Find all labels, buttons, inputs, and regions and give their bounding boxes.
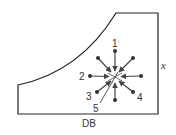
label-5: 5 xyxy=(93,103,99,114)
spoke-upper-right xyxy=(119,58,133,72)
dot-lower-left xyxy=(95,90,99,94)
label-3: 3 xyxy=(86,91,92,102)
dot-lower-right xyxy=(131,90,135,94)
spoke-left xyxy=(90,76,109,77)
label-1: 1 xyxy=(112,38,118,49)
label-2: 2 xyxy=(79,71,85,82)
spoke-lower-left xyxy=(97,81,111,92)
dot-upper-right xyxy=(131,56,135,60)
spoke-right xyxy=(121,76,141,77)
label-4: 4 xyxy=(137,92,143,103)
spoke-lower-right xyxy=(119,81,133,92)
dot-upper-left xyxy=(96,56,100,60)
spoke-upper-left xyxy=(98,58,111,72)
diagram-canvas: 1 2 3 4 5 x DB xyxy=(0,0,176,135)
label-x: x xyxy=(160,59,166,71)
dot-left xyxy=(88,74,92,78)
dot-top xyxy=(113,49,117,53)
label-db: DB xyxy=(82,118,96,129)
dot-bottom xyxy=(113,98,117,102)
dot-right xyxy=(139,74,143,78)
